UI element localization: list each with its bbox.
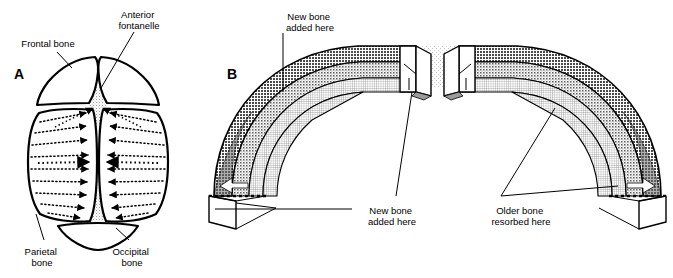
older-bone-resorbed-here-label: Older bone resorbed here xyxy=(491,205,550,227)
base-block-right xyxy=(639,196,666,229)
midline-block-right-face xyxy=(459,46,475,92)
parietal-bone-right xyxy=(99,109,168,222)
frontal-bone-leader xyxy=(57,52,72,68)
base-block-left-lower-edge xyxy=(236,208,276,229)
frontal-bone-label: Frontal bone xyxy=(21,38,74,49)
base-block-right-lower-edge xyxy=(599,208,639,229)
panel-b: B xyxy=(209,11,666,229)
new-bone-bottom-leader xyxy=(396,92,412,196)
anterior-fontanelle-label: Anterior fontanelle xyxy=(118,9,159,31)
new-bone-bottom-leader-diagonal xyxy=(236,203,276,208)
figure-root: A xyxy=(0,0,673,278)
new-bone-added-here-top-label: New bone added here xyxy=(286,11,334,33)
base-block-left xyxy=(209,196,236,229)
figure-svg: A xyxy=(0,0,673,278)
arch-right-half xyxy=(444,46,666,229)
parietal-bone-label: Parietal bone xyxy=(25,246,60,268)
panel-a-letter: A xyxy=(14,66,24,82)
panel-a: A xyxy=(14,9,168,268)
frontal-bone-right xyxy=(98,57,159,105)
older-bone-resorbed-leader-upper xyxy=(501,108,555,196)
new-bone-added-here-bottom-label: New bone added here xyxy=(368,205,416,227)
frontal-bone-left xyxy=(37,57,98,105)
midline-block-left-face xyxy=(400,46,416,92)
midline-block-right-side xyxy=(444,46,459,96)
midline-block-left-side xyxy=(416,46,431,96)
arch-left-half xyxy=(209,46,431,229)
parietal-bone-left xyxy=(28,109,97,222)
occipital-bone-label: Occipital bone xyxy=(112,246,151,268)
parietal-bone-leader xyxy=(36,214,44,240)
panel-b-letter: B xyxy=(227,66,237,82)
